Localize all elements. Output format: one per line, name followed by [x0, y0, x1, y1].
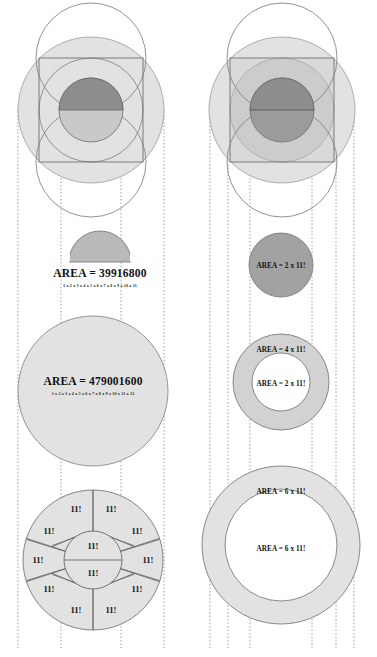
- wheel-inner-label-2: 11!: [88, 568, 99, 578]
- left-halfdisc-expansion-label: 1 x 2 x 3 x 4 x 5 x 6 x 7 x 8 x 9 x 10 x…: [63, 283, 137, 288]
- wheel-outer-label-5: 11!: [132, 584, 143, 594]
- wheel-outer-label-10: 11!: [44, 526, 55, 536]
- annulus-small-ring-label: AREA = 4 x 11!: [256, 346, 305, 354]
- wheel-outer-label-1: 11!: [71, 504, 82, 514]
- left-bigcircle-area-label: AREA = 479001600: [43, 375, 142, 387]
- right-disc-group: AREA = 2 x 11!: [249, 233, 313, 297]
- left-bigcircle-expansion-label: 1 x 2 x 3 x 4 x 5 x 6 x 7 x 8 x 9 x 10 x…: [52, 391, 135, 396]
- left-wheel-group: 11! 11! 11! 11! 11! 11! 11! 11! 11! 11! …: [23, 490, 163, 630]
- annulus-large-inner-label: AREA = 6 x 11!: [256, 545, 305, 553]
- right-small-annulus-group: AREA = 4 x 11! AREA = 2 x 11!: [233, 334, 329, 430]
- annulus-small-inner-label: AREA = 2 x 11!: [256, 380, 305, 388]
- wheel-outer-label-3: 11!: [132, 526, 143, 536]
- factorial-area-diagram: AREA = 39916800 1 x 2 x 3 x 4 x 5 x 6 x …: [0, 0, 377, 657]
- wheel-inner-label-1: 11!: [88, 541, 99, 551]
- wheel-outer-label-2: 11!: [106, 504, 117, 514]
- left-halfdisc-area-label: AREA = 39916800: [53, 267, 146, 279]
- left-big-circle-group: AREA = 479001600 1 x 2 x 3 x 4 x 5 x 6 x…: [18, 316, 168, 466]
- right-disc-area-label: AREA = 2 x 11!: [256, 262, 305, 270]
- figure-canvas: AREA = 39916800 1 x 2 x 3 x 4 x 5 x 6 x …: [0, 0, 377, 657]
- wheel-outer-label-4: 11!: [143, 555, 154, 565]
- wheel-outer-label-8: 11!: [44, 584, 55, 594]
- annulus-large-ring-label: AREA = 6 x 11!: [256, 488, 305, 496]
- wheel-outer-label-7: 11!: [71, 605, 82, 615]
- wheel-outer-label-9: 11!: [33, 555, 44, 565]
- wheel-outer-label-6: 11!: [106, 605, 117, 615]
- right-large-annulus-group: AREA = 6 x 11! AREA = 6 x 11!: [202, 466, 360, 624]
